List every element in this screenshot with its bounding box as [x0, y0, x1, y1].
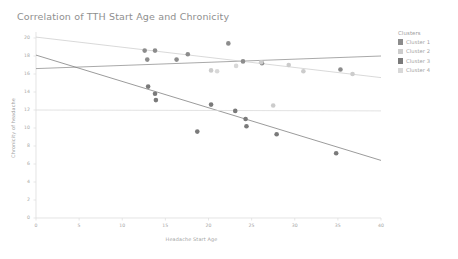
data-point	[146, 84, 151, 89]
data-point	[244, 124, 249, 129]
x-tick-label: 0	[26, 223, 46, 228]
chart-container: Correlation of TTH Start Age and Chronic…	[0, 0, 458, 259]
data-point	[145, 57, 150, 62]
legend: Clusters Cluster 1Cluster 2Cluster 3Clus…	[398, 30, 458, 76]
data-point	[259, 60, 264, 65]
data-point	[153, 48, 158, 53]
data-point	[233, 109, 238, 114]
axis-lines	[36, 32, 381, 218]
data-point	[186, 52, 191, 57]
x-tick-label: 25	[242, 223, 262, 228]
tick-marks	[34, 38, 382, 221]
legend-item-cluster-1[interactable]: Cluster 1	[398, 39, 458, 46]
x-tick-label: 10	[112, 223, 132, 228]
legend-swatch-icon	[398, 49, 403, 54]
trend-line-2	[36, 37, 381, 78]
scatter-plot-canvas	[0, 0, 458, 259]
data-point	[338, 67, 343, 72]
y-tick-label: 2	[10, 197, 30, 202]
legend-swatch-icon	[398, 68, 403, 73]
legend-swatch-icon	[398, 39, 403, 44]
legend-item-label: Cluster 1	[406, 39, 430, 45]
legend-item-label: Cluster 2	[406, 48, 430, 54]
data-point	[215, 69, 220, 74]
y-tick-label: 18	[10, 53, 30, 58]
data-point	[142, 48, 147, 53]
data-point	[234, 64, 239, 69]
legend-title: Clusters	[398, 30, 458, 36]
data-point	[241, 59, 246, 64]
data-point	[153, 92, 158, 97]
x-axis-title: Headache Start Age	[0, 236, 383, 242]
data-point	[174, 57, 179, 62]
data-point	[243, 117, 248, 122]
data-point	[209, 102, 214, 107]
y-tick-label: 4	[10, 179, 30, 184]
x-tick-label: 30	[285, 223, 305, 228]
trend-line-1	[36, 56, 381, 69]
trend-line-4	[36, 110, 381, 111]
y-tick-label: 0	[10, 215, 30, 220]
data-point	[350, 72, 355, 77]
data-point	[195, 129, 200, 134]
data-point	[271, 103, 276, 108]
trend-lines	[36, 37, 381, 160]
x-tick-label: 20	[199, 223, 219, 228]
data-point	[301, 69, 306, 74]
y-tick-label: 20	[10, 35, 30, 40]
y-axis-title: Chronicity of headache	[10, 93, 16, 163]
legend-swatch-icon	[398, 58, 403, 63]
data-point	[209, 68, 214, 73]
data-point	[226, 41, 231, 46]
data-point	[334, 151, 339, 156]
legend-item-cluster-4[interactable]: Cluster 4	[398, 67, 458, 74]
x-tick-label: 15	[155, 223, 175, 228]
legend-item-cluster-2[interactable]: Cluster 2	[398, 48, 458, 55]
legend-items: Cluster 1Cluster 2Cluster 3Cluster 4	[398, 39, 458, 74]
data-point	[154, 98, 159, 103]
data-point	[274, 132, 279, 137]
legend-item-label: Cluster 4	[406, 67, 430, 73]
legend-item-label: Cluster 3	[406, 58, 430, 64]
x-tick-label: 5	[69, 223, 89, 228]
x-tick-label: 40	[371, 223, 391, 228]
x-tick-label: 35	[328, 223, 348, 228]
trend-line-3	[36, 55, 381, 160]
y-tick-label: 16	[10, 71, 30, 76]
legend-item-cluster-3[interactable]: Cluster 3	[398, 57, 458, 64]
data-point	[286, 63, 291, 68]
